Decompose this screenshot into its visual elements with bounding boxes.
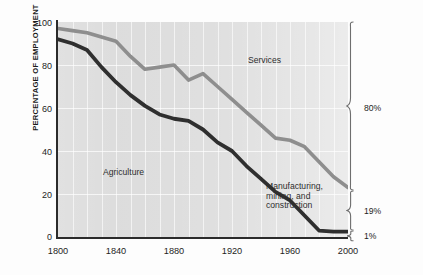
- plot-area: Services Agriculture Manufacturing, mini…: [58, 22, 348, 237]
- y-tick-20: 20: [26, 190, 52, 200]
- x-tick-1920: 1920: [214, 246, 250, 256]
- services-line: [58, 28, 348, 187]
- x-axis-line: [56, 237, 348, 239]
- band-label-manufacturing: Manufacturing, mining, and construction: [266, 182, 338, 211]
- y-tick-40: 40: [26, 147, 52, 157]
- brace-19-percent: [347, 191, 354, 230]
- band-label-services: Services: [248, 56, 281, 66]
- y-tick-0: 0: [26, 232, 52, 242]
- x-tick-1880: 1880: [156, 246, 192, 256]
- band-label-manufacturing-line1: Manufacturing,: [266, 181, 323, 191]
- employment-share-chart: PERCENTAGE OF EMPLOYMENT 100 80 60 40 20…: [0, 0, 423, 275]
- brace-svg: [346, 18, 360, 242]
- band-label-manufacturing-line3: construction: [266, 200, 312, 210]
- brace-1-percent: [347, 231, 353, 241]
- right-brace-group: [346, 18, 360, 242]
- band-label-agriculture: Agriculture: [103, 168, 144, 178]
- y-tick-60: 60: [26, 104, 52, 114]
- right-label-1-percent: 1%: [364, 231, 376, 241]
- y-tick-80: 80: [26, 61, 52, 71]
- right-label-80-percent: 80%: [364, 103, 381, 113]
- y-axis-line: [56, 20, 58, 239]
- x-tick-2000: 2000: [330, 246, 366, 256]
- x-tick-1960: 1960: [272, 246, 308, 256]
- x-tick-1800: 1800: [40, 246, 76, 256]
- y-tick-100: 100: [26, 18, 52, 28]
- right-label-19-percent: 19%: [364, 206, 381, 216]
- brace-80-percent: [347, 22, 354, 190]
- x-tick-1840: 1840: [98, 246, 134, 256]
- band-label-manufacturing-line2: mining, and: [266, 191, 310, 201]
